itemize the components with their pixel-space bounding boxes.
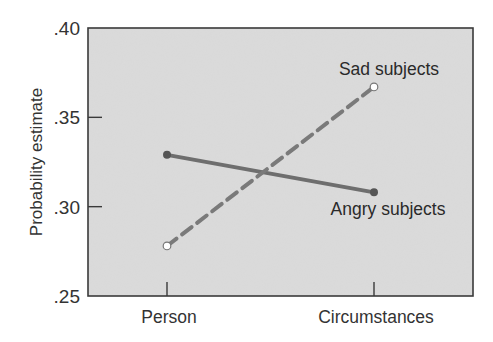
series-label: Sad subjects (339, 59, 439, 79)
y-axis-title: Probability estimate (27, 88, 46, 236)
line-chart: .25.30.35.40 PersonCircumstances Angry s… (0, 0, 493, 342)
x-category-label: Circumstances (318, 307, 434, 327)
y-tick-label: .35 (54, 107, 80, 128)
x-category-label: Person (141, 307, 196, 327)
data-point (370, 83, 378, 91)
series-label: Angry subjects (331, 199, 446, 219)
y-tick-label: .40 (54, 18, 80, 39)
data-point (370, 188, 378, 196)
data-point (163, 242, 171, 250)
data-point (163, 151, 171, 159)
y-tick-label: .30 (54, 197, 80, 218)
y-tick-label: .25 (54, 286, 80, 307)
